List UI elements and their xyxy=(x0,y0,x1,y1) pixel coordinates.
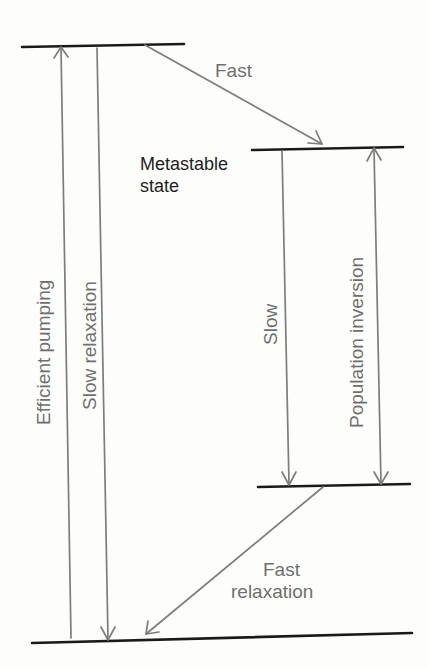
fast-relaxation-label-line2: relaxation xyxy=(231,581,313,602)
population-inversion-label: Population inversion xyxy=(346,257,367,428)
lower-laser-level xyxy=(258,484,410,487)
ground-level xyxy=(32,633,412,643)
slow-relaxation-label: Slow relaxation xyxy=(79,281,100,410)
efficient-pumping-label: Efficient pumping xyxy=(33,280,54,425)
population-inversion-arrow xyxy=(367,148,381,484)
slow-label: Slow xyxy=(260,304,281,345)
metastable-state-label-line1: Metastable xyxy=(140,154,228,174)
fast-label: Fast xyxy=(215,60,253,81)
slow-transition-arrow xyxy=(282,151,296,485)
energy-level-diagram: Metastable state Fast Efficient pumping … xyxy=(0,0,428,668)
metastable-state-label-line2: state xyxy=(140,176,179,196)
metastable-level xyxy=(252,147,403,150)
upper-pump-level xyxy=(22,44,184,47)
efficient-pumping-arrow xyxy=(54,47,71,638)
fast-relaxation-label-line1: Fast xyxy=(263,559,301,580)
